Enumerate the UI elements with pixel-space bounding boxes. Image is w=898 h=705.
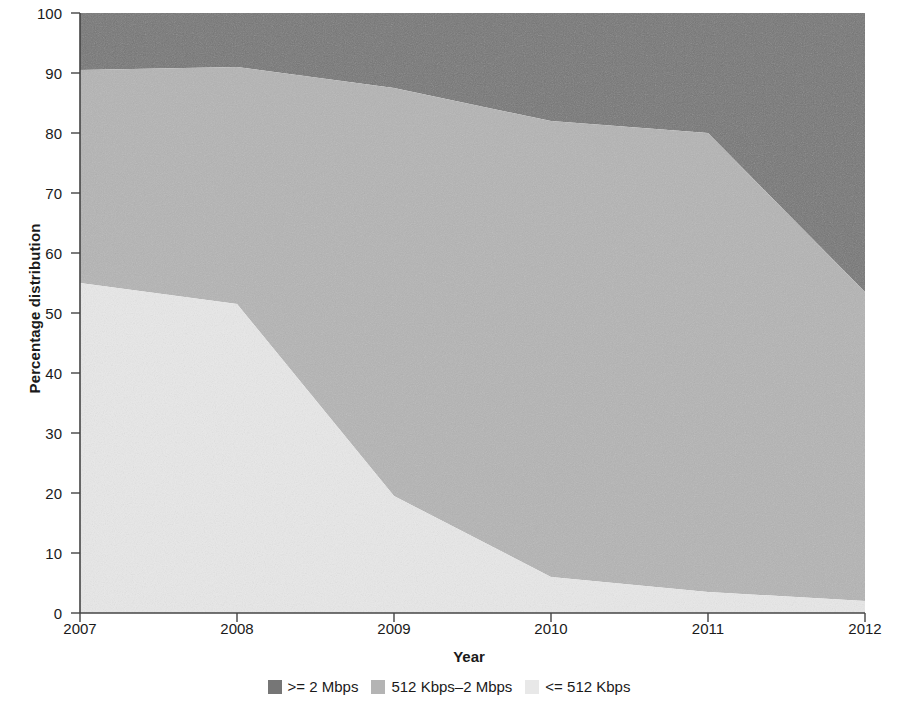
x-axis-title: Year — [0, 648, 898, 665]
plot-area — [0, 0, 898, 705]
legend-swatch-icon — [268, 680, 282, 694]
legend-label: >= 2 Mbps — [288, 678, 359, 695]
chart-container: Percentage distribution 0102030405060708… — [0, 0, 898, 705]
legend-swatch-icon — [371, 680, 385, 694]
legend-item: >= 2 Mbps — [268, 678, 359, 695]
legend-swatch-icon — [525, 680, 539, 694]
x-tick-label: 2010 — [534, 620, 567, 637]
legend-label: 512 Kbps–2 Mbps — [391, 678, 512, 695]
x-tick-label: 2007 — [63, 620, 96, 637]
x-tick-label: 2011 — [692, 620, 724, 637]
legend-item: 512 Kbps–2 Mbps — [371, 678, 512, 695]
x-tick-label: 2012 — [848, 620, 881, 637]
legend-label: <= 512 Kbps — [545, 678, 630, 695]
x-tick-label: 2008 — [220, 620, 253, 637]
chart-legend: >= 2 Mbps512 Kbps–2 Mbps<= 512 Kbps — [0, 678, 898, 695]
legend-item: <= 512 Kbps — [525, 678, 630, 695]
x-tick-label: 2009 — [377, 620, 410, 637]
